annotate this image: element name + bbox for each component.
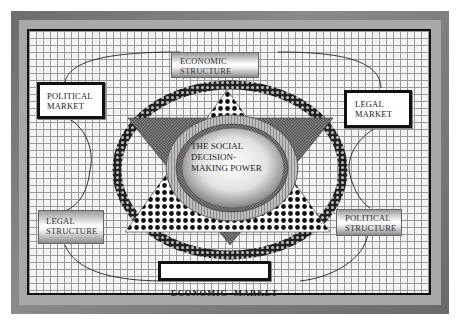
node-label: LEGAL [355, 99, 401, 109]
node-label: POLITICAL [47, 91, 95, 101]
center-label-line-3: MAKING POWER [191, 163, 262, 174]
node-legal-market: LEGAL MARKET [344, 90, 412, 128]
node-label: ECONOMIC [180, 56, 250, 66]
node-economic-structure: ECONOMIC STRUCTURE [171, 52, 259, 78]
node-legal-structure: LEGAL STRUCTURE [38, 210, 104, 244]
node-label: MARKET [355, 109, 401, 119]
node-political-market: POLITICAL MARKET [37, 82, 105, 119]
node-label: MARKET [47, 101, 95, 111]
node-label: STRUCTURE [180, 66, 250, 76]
node-label: STRUCTURE [345, 223, 393, 233]
node-label: STRUCTURE [46, 226, 96, 236]
center-label-line-1: THE SOCIAL [191, 141, 262, 152]
node-label: ECONOMIC MARKET [171, 288, 258, 298]
node-label: POLITICAL [345, 213, 393, 223]
node-political-structure: POLITICAL STRUCTURE [336, 209, 402, 236]
center-label-line-2: DECISION- [191, 152, 262, 163]
node-label: LEGAL [46, 216, 96, 226]
node-economic-market: ECONOMIC MARKET [158, 261, 271, 281]
center-label: THE SOCIAL DECISION- MAKING POWER [191, 141, 262, 174]
